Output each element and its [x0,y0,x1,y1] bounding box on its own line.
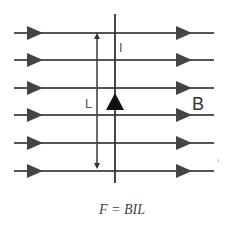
field-arrow-right-icon [176,164,192,178]
length-arrow-up-icon [94,33,100,39]
field-arrow-right-icon [176,26,192,40]
current-label: I [119,40,123,55]
field-arrow-right-icon [176,53,192,67]
field-label: B [192,94,204,114]
length-marker [94,33,100,169]
length-arrow-down-icon [94,163,100,169]
stray-mark [218,159,219,162]
formula-text: F = BIL [98,202,145,217]
field-arrow-right-icon [176,81,192,95]
field-arrow-right-icon [27,136,43,150]
field-arrow-right-icon [27,108,43,122]
field-arrow-right-icon [176,136,192,150]
magnetic-force-diagram: I L B F = BIL [0,0,227,225]
field-arrow-right-icon [27,26,43,40]
field-arrow-right-icon [27,53,43,67]
field-arrow-right-icon [27,81,43,95]
field-arrow-right-icon [27,164,43,178]
length-label: L [85,96,92,111]
field-arrow-right-icon [176,108,192,122]
current-direction-arrow-icon [106,93,124,110]
